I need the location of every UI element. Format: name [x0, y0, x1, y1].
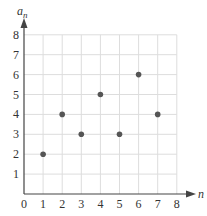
data-point: [79, 132, 85, 138]
y-tick-label: 3: [13, 127, 19, 141]
x-tick-label: 2: [59, 197, 65, 211]
x-tick-label: 4: [97, 197, 103, 211]
x-tick-label: 8: [174, 197, 180, 211]
y-tick-labels: 12345678: [13, 28, 19, 181]
x-tick-label: 3: [78, 197, 84, 211]
y-tick-label: 1: [13, 167, 19, 181]
x-tick-label: 5: [117, 197, 123, 211]
x-tick-label: 6: [136, 197, 142, 211]
y-tick-label: 7: [13, 48, 19, 62]
y-tick-label: 2: [13, 147, 19, 161]
data-point: [136, 72, 142, 78]
x-tick-labels: 012345678: [21, 197, 180, 211]
scatter-chart: 012345678 12345678 n an: [0, 0, 207, 216]
y-tick-label: 4: [13, 107, 19, 121]
y-tick-label: 6: [13, 68, 19, 82]
x-axis-label: n: [198, 187, 204, 201]
x-tick-label: 0: [21, 197, 27, 211]
data-point: [155, 112, 161, 118]
data-point: [117, 132, 123, 138]
axes: [21, 18, 197, 198]
data-point: [59, 112, 65, 118]
grid: [24, 35, 177, 194]
x-axis-arrow-icon: [186, 191, 196, 198]
x-tick-label: 1: [40, 197, 46, 211]
y-tick-label: 5: [13, 88, 19, 102]
data-point: [40, 151, 46, 157]
x-tick-label: 7: [155, 197, 161, 211]
y-axis-label: an: [17, 4, 28, 20]
y-tick-label: 8: [13, 28, 19, 42]
data-point: [98, 92, 104, 98]
